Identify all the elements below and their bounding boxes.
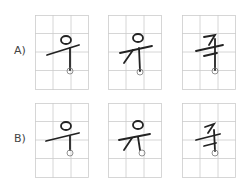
grid-box-b3 <box>182 103 236 178</box>
row-label-b: B) <box>14 132 26 145</box>
grid-box-b2 <box>108 103 162 178</box>
grid-box-a1 <box>35 15 89 90</box>
grid-box-b1 <box>35 103 89 178</box>
grid-box-a2 <box>108 15 162 90</box>
row-label-a: A) <box>14 44 26 57</box>
grid-box-a3 <box>182 15 236 90</box>
